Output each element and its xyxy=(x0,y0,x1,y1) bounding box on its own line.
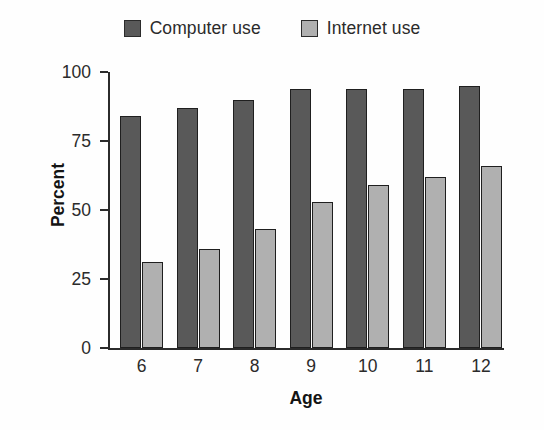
bar-computer-use[interactable] xyxy=(403,89,424,348)
bar-group: 12 xyxy=(459,72,502,348)
chart-legend: Computer useInternet use xyxy=(0,18,544,39)
plot-area: 02550751006789101112 xyxy=(108,72,504,348)
bar-chart-figure: Computer useInternet use 025507510067891… xyxy=(0,0,544,430)
bar-internet-use[interactable] xyxy=(199,249,220,348)
y-axis-tick: 100 xyxy=(100,71,108,73)
legend-swatch-icon xyxy=(301,20,318,37)
y-axis-tick: 25 xyxy=(100,278,108,280)
bar-computer-use[interactable] xyxy=(346,89,367,348)
bar-group: 7 xyxy=(177,72,220,348)
bar-computer-use[interactable] xyxy=(120,116,141,348)
x-axis-tick-label: 9 xyxy=(290,356,333,377)
bar-group: 6 xyxy=(120,72,163,348)
y-axis-tick-label: 0 xyxy=(81,338,91,359)
y-axis-title: Percent xyxy=(48,163,69,227)
x-axis-tick-label: 12 xyxy=(459,356,502,377)
x-axis-tick-label: 7 xyxy=(177,356,220,377)
bar-internet-use[interactable] xyxy=(368,185,389,348)
y-axis-tick-label: 75 xyxy=(72,131,91,152)
y-axis-tick-label: 25 xyxy=(72,269,91,290)
x-axis-tick-label: 6 xyxy=(120,356,163,377)
y-axis-tick-label: 50 xyxy=(72,200,91,221)
bar-internet-use[interactable] xyxy=(142,262,163,348)
x-axis-line xyxy=(108,348,504,350)
legend-label: Internet use xyxy=(327,18,421,39)
x-axis-tick-label: 8 xyxy=(233,356,276,377)
legend-entry: Computer use xyxy=(124,18,261,39)
y-axis-line xyxy=(108,72,110,349)
bar-group: 11 xyxy=(403,72,446,348)
bar-computer-use[interactable] xyxy=(177,108,198,348)
x-axis-tick-label: 11 xyxy=(403,356,446,377)
y-axis-tick: 75 xyxy=(100,140,108,142)
y-axis-tick: 50 xyxy=(100,209,108,211)
bar-group: 9 xyxy=(290,72,333,348)
y-axis-tick: 0 xyxy=(100,347,108,349)
bar-internet-use[interactable] xyxy=(255,229,276,348)
bar-internet-use[interactable] xyxy=(481,166,502,348)
bar-computer-use[interactable] xyxy=(459,86,480,348)
bar-group: 8 xyxy=(233,72,276,348)
x-axis-title: Age xyxy=(108,388,504,409)
legend-swatch-icon xyxy=(124,20,141,37)
legend-entry: Internet use xyxy=(301,18,421,39)
bar-computer-use[interactable] xyxy=(233,100,254,348)
x-axis-tick-label: 10 xyxy=(346,356,389,377)
bar-group: 10 xyxy=(346,72,389,348)
y-axis-tick-label: 100 xyxy=(62,62,91,83)
bar-internet-use[interactable] xyxy=(312,202,333,348)
bar-internet-use[interactable] xyxy=(425,177,446,348)
legend-label: Computer use xyxy=(150,18,261,39)
bar-computer-use[interactable] xyxy=(290,89,311,348)
